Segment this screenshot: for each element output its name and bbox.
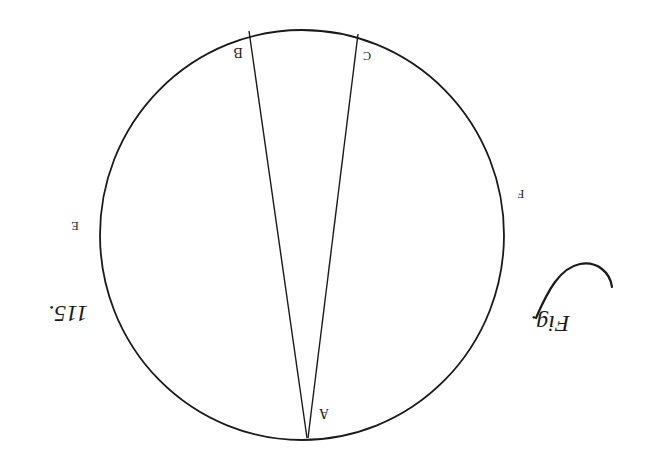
- geometry-figure: A B C E F Fig. 115.: [0, 0, 653, 470]
- label-point-b: B: [233, 45, 242, 60]
- flourish-curve: [536, 264, 612, 318]
- label-point-c: C: [363, 49, 371, 63]
- label-point-e: E: [71, 219, 78, 233]
- caption-number: 115.: [48, 301, 88, 327]
- label-point-a: A: [318, 406, 329, 421]
- chord-ab: [249, 31, 307, 438]
- label-point-f: F: [517, 187, 524, 201]
- chord-ac: [308, 34, 358, 438]
- circle-outline: [100, 30, 504, 440]
